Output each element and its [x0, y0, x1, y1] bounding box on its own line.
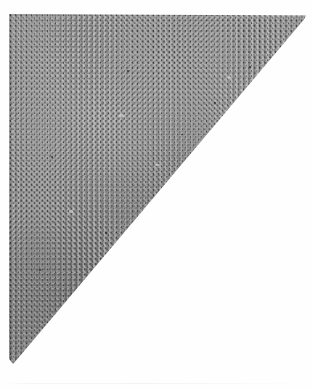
- scan-artifact-line: [4, 383, 308, 384]
- slub-5: [214, 102, 216, 104]
- lint-3: [69, 210, 73, 213]
- slub-6: [51, 156, 53, 158]
- slub-3: [127, 70, 129, 72]
- slub-7: [105, 232, 107, 234]
- slub-8: [181, 134, 183, 135]
- lint-1: [119, 114, 124, 117]
- slub-10: [249, 66, 251, 68]
- lint-4: [155, 164, 160, 166]
- slub-9: [39, 269, 41, 271]
- fabric-swatch-photo: [0, 0, 312, 389]
- lint-2: [227, 76, 231, 79]
